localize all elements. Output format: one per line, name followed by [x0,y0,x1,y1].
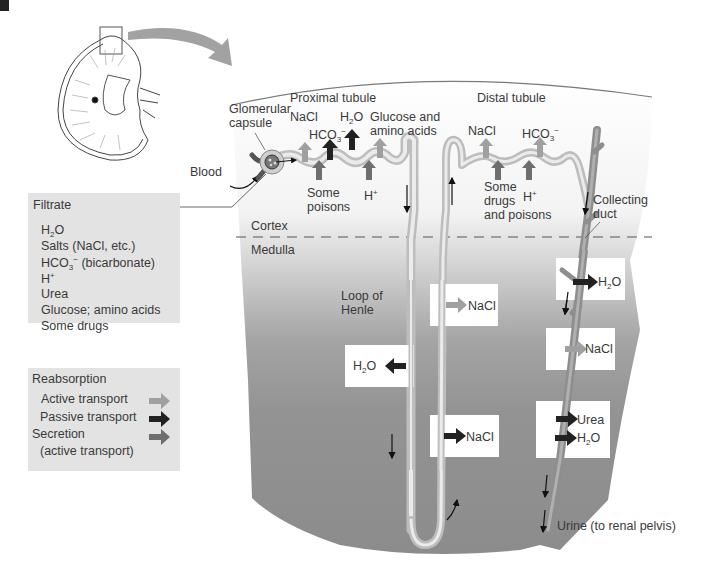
distal-hco3-label: HCO3− [522,124,559,146]
loop-of-henle-label: Loop of Henle [341,289,383,317]
filtrate-panel: Filtrate H2O Salts (NaCl, etc.) HCO3− (b… [28,193,180,323]
proximal-h-plus-label: H+ [364,186,378,203]
filtrate-item-drugs: Some drugs [41,319,108,333]
filtrate-title: Filtrate [33,198,71,212]
legend-arrows [148,392,174,452]
loop-nacl-lower-label: NaCl [466,430,494,444]
filtrate-item-glucose: Glucose; amino acids [41,303,161,317]
legend-secretion-label: Secretion [32,427,85,441]
proximal-tubule-label: Proximal tubule [290,91,376,105]
loop-nacl-upper-label: NaCl [468,299,496,313]
passive-transport-arrow-icon [149,411,170,427]
loop-active-nacl-upper-arrow [446,297,467,313]
legend-panel: Reabsorption Active transport Passive tr… [28,368,180,471]
legend-secretion-sublabel: (active transport) [40,444,134,458]
duct-h2o-lower-label: H2O [577,431,600,450]
distal-tubule-label: Distal tubule [477,91,546,105]
secretion-arrow-icon [149,429,170,445]
medulla-label: Medulla [251,243,295,257]
loop-h2o-label: H2O [353,359,376,378]
filtrate-item-urea: Urea [41,287,68,301]
loop-passive-nacl-lower-arrow [444,428,466,444]
collecting-duct-label: Collecting duct [593,193,648,221]
legend-passive-label: Passive transport [40,410,137,424]
distal-some-drugs-label: Some drugs and poisons [484,180,551,222]
duct-nacl-label: NaCl [585,342,613,356]
duct-h2o-upper-label: H2O [598,275,621,294]
filtrate-item-bicarbonate: HCO3− (bicarbonate) [41,255,155,272]
proximal-some-poisons-label: Some poisons [307,186,350,214]
glomerular-capsule-label: Glomerular capsule [229,102,291,130]
urine-label: Urine (to renal pelvis) [557,519,676,533]
filtrate-item-h-plus: H+ [41,271,55,286]
duct-urea-label: Urea [577,413,604,427]
distal-h-plus-label: H+ [523,187,537,204]
legend-title: Reabsorption [32,372,106,386]
proximal-h2o-label: H2O [340,110,363,129]
loop-passive-h2o-arrow [385,358,406,374]
blood-label: Blood [190,165,222,179]
filtrate-item-salts: Salts (NaCl, etc.) [41,239,135,253]
active-transport-arrow-icon [149,393,170,409]
proximal-nacl-label: NaCl [290,110,318,124]
cortex-label: Cortex [251,219,288,233]
proximal-glucose-label: Glucose and amino acids [370,110,440,138]
distal-nacl-label: NaCl [468,124,496,138]
legend-active-label: Active transport [41,392,128,406]
filtrate-item-h2o: H2O [41,223,64,239]
